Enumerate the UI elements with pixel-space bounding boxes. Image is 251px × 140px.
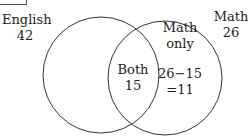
both-region: Both 15 [113, 62, 153, 94]
math-label: Math [211, 9, 251, 25]
math-only-calculation: 26−15 =11 [155, 66, 205, 98]
math-set-label: Math 26 [211, 9, 251, 41]
both-value: 15 [113, 78, 153, 94]
both-label: Both [113, 62, 153, 78]
math-value: 26 [211, 25, 251, 41]
math-only-label-2: only [155, 36, 205, 52]
english-value: 42 [2, 28, 48, 44]
english-label: English [2, 12, 48, 28]
math-only-region: Math only [155, 20, 205, 52]
math-only-calc-1: 26−15 [155, 66, 205, 82]
math-only-calc-2: =11 [155, 82, 205, 98]
math-only-label-1: Math [155, 20, 205, 36]
english-set-label: English 42 [2, 12, 48, 44]
